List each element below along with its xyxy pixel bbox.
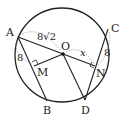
label-n: N	[96, 67, 106, 80]
label-m: M	[37, 66, 48, 79]
circle-geometry-diagram: A B C D O M N 8√2 8 8 x	[0, 0, 124, 119]
label-c: C	[111, 22, 119, 35]
measure-label-on: x	[80, 47, 86, 58]
measure-label-cn: 8	[104, 47, 110, 58]
right-angle-marker-m	[32, 60, 38, 64]
chord-cd	[85, 29, 108, 100]
label-d: D	[81, 104, 90, 117]
segment-om	[34, 54, 63, 66]
measure-label-ao: 8√2	[37, 31, 56, 42]
measure-label-am: 8	[17, 52, 23, 63]
label-o: O	[61, 40, 70, 53]
label-b: B	[43, 104, 51, 117]
label-a: A	[5, 26, 15, 39]
